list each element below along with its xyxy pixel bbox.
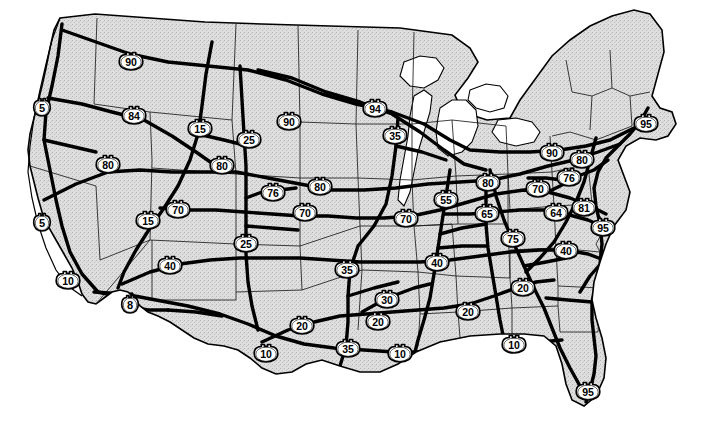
shield-route-number: 8: [127, 299, 133, 311]
shield-graphic: 80: [569, 149, 595, 169]
interstate-shield-95[interactable]: 95: [590, 217, 616, 237]
shield-route-number: 40: [164, 260, 176, 272]
interstate-shield-64[interactable]: 64: [543, 202, 569, 222]
shield-route-number: 80: [482, 177, 494, 189]
shield-route-number: 95: [597, 222, 609, 234]
shield-graphic: 25: [236, 129, 262, 149]
shield-graphic: 90: [539, 142, 565, 162]
interstate-shield-80[interactable]: 80: [95, 154, 121, 174]
shield-route-number: 20: [296, 320, 308, 332]
interstate-shield-90[interactable]: 90: [276, 111, 302, 131]
shield-graphic: 15: [135, 210, 161, 230]
shield-route-number: 30: [381, 294, 393, 306]
interstate-shield-8[interactable]: 8: [121, 294, 140, 314]
interstate-shield-35[interactable]: 35: [382, 125, 408, 145]
interstate-shield-30[interactable]: 30: [374, 289, 400, 309]
interstate-shield-90[interactable]: 90: [539, 142, 565, 162]
interstate-shield-70[interactable]: 70: [292, 202, 318, 222]
interstate-shield-15[interactable]: 15: [135, 210, 161, 230]
interstate-shield-35[interactable]: 35: [335, 338, 361, 358]
interstate-shield-76[interactable]: 76: [556, 167, 582, 187]
shield-graphic: 95: [633, 113, 659, 133]
shield-graphic: 25: [233, 233, 259, 253]
shield-graphic: 35: [382, 125, 408, 145]
interstate-shield-40[interactable]: 40: [157, 255, 183, 275]
interstate-shield-5[interactable]: 5: [33, 97, 52, 117]
shield-graphic: 8: [121, 294, 140, 314]
interstate-shield-95[interactable]: 95: [575, 381, 601, 401]
shield-graphic: 70: [165, 199, 191, 219]
interstate-shield-75[interactable]: 75: [500, 228, 526, 248]
shield-route-number: 15: [142, 215, 154, 227]
interstate-shield-81[interactable]: 81: [571, 197, 597, 217]
shield-route-number: 70: [299, 207, 311, 219]
interstate-shield-10[interactable]: 10: [501, 334, 527, 354]
shield-route-number: 10: [260, 348, 272, 360]
shield-graphic: 20: [365, 311, 391, 331]
interstate-shield-20[interactable]: 20: [365, 311, 391, 331]
shield-route-number: 81: [578, 202, 590, 214]
interstate-shield-76[interactable]: 76: [260, 182, 286, 202]
shield-graphic: 80: [307, 176, 333, 196]
shield-route-number: 40: [431, 257, 443, 269]
interstate-shield-70[interactable]: 70: [525, 178, 551, 198]
shield-graphic: 10: [55, 270, 81, 290]
shield-route-number: 80: [576, 154, 588, 166]
interstate-shield-80[interactable]: 80: [307, 176, 333, 196]
interstate-shield-80[interactable]: 80: [209, 155, 235, 175]
interstate-shield-25[interactable]: 25: [233, 233, 259, 253]
interstate-shield-40[interactable]: 40: [424, 252, 450, 272]
interstate-shield-20[interactable]: 20: [289, 315, 315, 335]
shield-graphic: 94: [362, 98, 388, 118]
shield-graphic: 81: [571, 197, 597, 217]
interstate-shield-95[interactable]: 95: [633, 113, 659, 133]
shield-route-number: 10: [62, 275, 74, 287]
shield-route-number: 35: [342, 343, 354, 355]
shield-route-number: 65: [481, 208, 493, 220]
shield-route-number: 35: [341, 264, 353, 276]
shield-route-number: 84: [128, 110, 140, 122]
interstate-shield-70[interactable]: 70: [165, 199, 191, 219]
interstate-shield-5[interactable]: 5: [33, 212, 52, 232]
shield-graphic: 5: [33, 97, 52, 117]
shield-route-number: 10: [508, 339, 520, 351]
shield-graphic: 40: [553, 240, 579, 260]
shield-graphic: 70: [525, 178, 551, 198]
shield-graphic: 10: [253, 343, 279, 363]
interstate-shield-20[interactable]: 20: [455, 301, 481, 321]
interstate-shield-40[interactable]: 40: [553, 240, 579, 260]
shield-route-number: 80: [314, 181, 326, 193]
shield-route-number: 35: [389, 130, 401, 142]
shield-graphic: 64: [543, 202, 569, 222]
shield-route-number: 76: [267, 187, 279, 199]
shield-route-number: 20: [372, 316, 384, 328]
interstate-shield-84[interactable]: 84: [121, 105, 147, 125]
interstate-shield-20[interactable]: 20: [510, 277, 536, 297]
interstate-shield-65[interactable]: 65: [474, 203, 500, 223]
interstate-shield-80[interactable]: 80: [475, 172, 501, 192]
interstate-shield-10[interactable]: 10: [387, 343, 413, 363]
interstate-shield-15[interactable]: 15: [187, 118, 213, 138]
shield-graphic: 40: [157, 255, 183, 275]
shield-graphic: 90: [276, 111, 302, 131]
shield-route-number: 90: [283, 116, 295, 128]
interstate-shield-10[interactable]: 10: [253, 343, 279, 363]
shield-graphic: 76: [556, 167, 582, 187]
interstate-shield-35[interactable]: 35: [334, 259, 360, 279]
interstate-shield-70[interactable]: 70: [393, 208, 419, 228]
interstate-shield-80[interactable]: 80: [569, 149, 595, 169]
shield-route-number: 70: [532, 183, 544, 195]
shield-graphic: 10: [501, 334, 527, 354]
shield-graphic: 20: [510, 277, 536, 297]
shield-graphic: 80: [95, 154, 121, 174]
interstate-highway-map: 9058415909435258080809080957680707670155…: [0, 0, 704, 445]
interstate-shield-55[interactable]: 55: [433, 189, 459, 209]
interstate-shield-25[interactable]: 25: [236, 129, 262, 149]
interstate-shield-94[interactable]: 94: [362, 98, 388, 118]
shield-route-number: 90: [546, 147, 558, 159]
shield-route-number: 95: [640, 118, 652, 130]
shield-graphic: 20: [289, 315, 315, 335]
interstate-shield-10[interactable]: 10: [55, 270, 81, 290]
interstate-shield-90[interactable]: 90: [118, 51, 144, 71]
shield-graphic: 95: [575, 381, 601, 401]
